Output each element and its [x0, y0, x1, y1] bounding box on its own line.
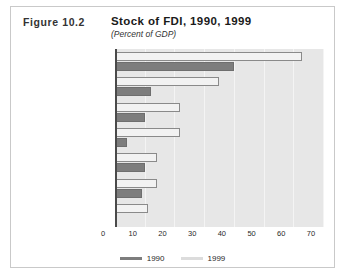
bar-1990: [115, 138, 127, 147]
bar-1990: [115, 189, 142, 198]
gridline: [323, 49, 324, 227]
plot-area: [115, 49, 323, 227]
legend-swatch: [120, 257, 142, 260]
gridline: [174, 49, 175, 227]
legend-item[interactable]: 1999: [181, 254, 226, 263]
figure-header: Figure 10.2 Stock of FDI, 1990, 1999 (Pe…: [11, 7, 334, 47]
chart-plot-wrapper: East AsiaAfricaLatin AmericaRest of Asia…: [23, 47, 323, 233]
value-axis-line: [115, 49, 117, 227]
bar-1999: [115, 128, 180, 137]
axis-tick-label: 30: [188, 229, 196, 238]
bar-1999: [115, 179, 157, 188]
bar-1999: [115, 153, 157, 162]
figure-number: Figure 10.2: [23, 16, 85, 28]
axis-tick-label: 60: [277, 229, 285, 238]
gridline: [234, 49, 235, 227]
bar-1999: [115, 52, 302, 61]
axis-tick-label: 20: [158, 229, 166, 238]
legend-item[interactable]: 1990: [120, 254, 165, 263]
legend-label: 1999: [208, 254, 226, 263]
bar-1990: [115, 62, 234, 71]
figure-card: Figure 10.2 Stock of FDI, 1990, 1999 (Pe…: [10, 6, 335, 268]
figure-title: Stock of FDI, 1990, 1999: [111, 15, 252, 27]
bar-1999: [115, 77, 219, 86]
legend-swatch: [181, 257, 203, 260]
gridline: [264, 49, 265, 227]
gridline: [204, 49, 205, 227]
bar-1990: [115, 113, 145, 122]
chart-legend: 19901999: [11, 250, 334, 266]
axis-tick-label: 0: [101, 229, 105, 238]
bar-1990: [115, 163, 145, 172]
bar-1990: [115, 87, 151, 96]
bar-1999: [115, 204, 148, 213]
figure-subtitle: (Percent of GDP): [111, 29, 176, 39]
axis-tick-label: 70: [307, 229, 315, 238]
axis-tick-label: 40: [218, 229, 226, 238]
axis-tick-label: 50: [247, 229, 255, 238]
gridline: [145, 49, 146, 227]
bar-1999: [115, 103, 180, 112]
gridline: [293, 49, 294, 227]
axis-tick-label: 10: [129, 229, 137, 238]
legend-label: 1990: [147, 254, 165, 263]
value-axis-ticks: 010203040506070: [103, 229, 311, 243]
